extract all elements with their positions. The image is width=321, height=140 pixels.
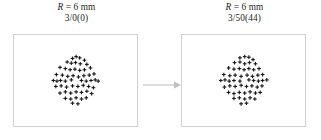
cross-marker-icon xyxy=(83,68,87,72)
cross-marker-icon xyxy=(55,79,59,83)
panel-left-caption: R = 6 mm 3/0(0) xyxy=(13,2,140,24)
cross-marker-icon xyxy=(90,92,94,96)
cross-marker-icon xyxy=(245,73,249,77)
panel-right-caption: R = 6 mm 3/50(44) xyxy=(181,2,308,24)
cross-marker-icon xyxy=(243,55,247,59)
cross-marker-icon xyxy=(223,78,227,82)
cross-marker-icon xyxy=(245,101,249,105)
cross-marker-icon xyxy=(71,84,75,88)
cross-marker-icon xyxy=(89,79,93,83)
arrow-head-icon xyxy=(174,81,181,88)
cross-marker-icon xyxy=(74,90,78,94)
cross-marker-icon xyxy=(228,84,232,88)
cross-marker-icon xyxy=(237,96,241,100)
cross-marker-icon xyxy=(257,79,261,83)
cross-marker-icon xyxy=(71,57,75,61)
radius-value: = 6 mm xyxy=(231,2,263,12)
cross-marker-icon xyxy=(71,101,75,105)
cross-marker-icon xyxy=(65,60,69,64)
cross-marker-icon xyxy=(223,85,227,89)
cross-marker-icon xyxy=(227,79,231,83)
panel-right-caption-line2: 3/50(44) xyxy=(181,13,308,24)
cross-marker-icon xyxy=(59,84,63,88)
cross-marker-icon xyxy=(242,68,246,72)
cross-marker-icon xyxy=(69,61,73,65)
cross-marker-icon xyxy=(265,78,269,82)
cross-marker-icon xyxy=(232,67,236,71)
panel-left-caption-line2: 3/0(0) xyxy=(13,13,140,24)
panel-right-plot-box xyxy=(181,34,306,127)
cross-marker-icon xyxy=(256,73,260,77)
cross-marker-icon xyxy=(52,79,56,83)
radius-value: = 6 mm xyxy=(63,2,95,12)
panel-right-caption-line1: R = 6 mm xyxy=(181,2,308,13)
cross-marker-icon xyxy=(233,85,237,89)
cross-marker-icon xyxy=(252,79,256,83)
cross-marker-icon xyxy=(261,73,265,77)
cross-marker-icon xyxy=(78,56,82,60)
cross-marker-icon xyxy=(63,67,67,71)
cross-marker-icon xyxy=(254,91,258,95)
cross-marker-icon xyxy=(85,89,89,93)
cross-marker-icon xyxy=(248,61,252,65)
cross-marker-icon xyxy=(238,60,242,64)
cross-marker-icon xyxy=(258,91,262,95)
cross-marker-icon xyxy=(92,86,96,90)
cross-marker-icon xyxy=(92,72,96,76)
cross-marker-icon xyxy=(237,67,241,71)
panel-left-caption-line1: R = 6 mm xyxy=(13,2,140,13)
cross-marker-icon xyxy=(253,97,257,101)
cross-marker-icon xyxy=(69,91,73,95)
cross-marker-icon xyxy=(58,91,62,95)
cross-marker-icon xyxy=(252,68,256,72)
cross-marker-icon xyxy=(76,102,80,106)
cross-marker-icon xyxy=(239,83,243,87)
cross-marker-icon xyxy=(248,90,252,94)
cross-marker-icon xyxy=(232,92,236,96)
cross-marker-icon xyxy=(261,79,265,83)
panel-left: R = 6 mm 3/0(0) xyxy=(13,0,140,140)
cross-marker-icon xyxy=(238,56,242,60)
cross-marker-icon xyxy=(83,58,87,62)
cross-marker-icon xyxy=(219,79,223,83)
cross-marker-icon xyxy=(85,63,89,67)
cross-marker-icon xyxy=(76,85,80,89)
cross-marker-icon xyxy=(80,79,84,83)
cross-marker-icon xyxy=(84,96,88,100)
cross-marker-icon xyxy=(247,55,251,59)
cross-marker-icon xyxy=(65,85,69,89)
cross-marker-icon xyxy=(245,85,249,89)
cross-marker-icon xyxy=(69,97,73,101)
cross-marker-icon xyxy=(78,68,82,72)
cross-marker-icon xyxy=(78,62,82,66)
cross-marker-icon xyxy=(247,67,251,71)
cross-marker-icon xyxy=(239,102,243,106)
cross-marker-icon xyxy=(80,91,84,95)
cross-marker-icon xyxy=(251,58,255,62)
panel-right: R = 6 mm 3/50(44) xyxy=(181,0,308,140)
panel-left-plot-box xyxy=(13,34,138,127)
cross-marker-icon xyxy=(59,79,63,83)
cross-marker-icon xyxy=(243,91,247,95)
cross-marker-icon xyxy=(257,67,261,71)
cross-marker-icon xyxy=(71,74,75,78)
cross-marker-icon xyxy=(87,73,91,77)
cross-marker-icon xyxy=(239,74,243,78)
cross-marker-icon xyxy=(247,78,251,82)
cross-marker-icon xyxy=(233,61,237,65)
cross-marker-icon xyxy=(63,90,67,94)
cross-marker-icon xyxy=(74,96,78,100)
cross-marker-icon xyxy=(260,84,264,88)
cross-marker-icon xyxy=(87,85,91,89)
cross-marker-icon xyxy=(63,97,67,101)
cross-marker-icon xyxy=(248,96,252,100)
cross-marker-icon xyxy=(243,97,247,101)
cross-marker-icon xyxy=(250,84,254,88)
panel-right-scatter xyxy=(182,35,305,126)
cross-marker-icon xyxy=(68,68,72,72)
cross-marker-icon xyxy=(69,78,73,82)
cross-marker-icon xyxy=(232,79,236,83)
cross-marker-icon xyxy=(80,97,84,101)
cross-marker-icon xyxy=(74,55,78,59)
cross-marker-icon xyxy=(227,91,231,95)
